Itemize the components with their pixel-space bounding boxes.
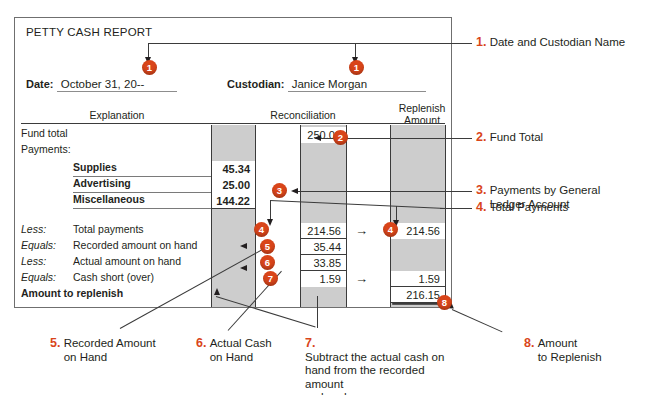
row-description: Recorded amount on hand xyxy=(73,239,197,251)
arrowhead-left-icon xyxy=(291,188,298,194)
table-row: Fund total 250.00 xyxy=(15,127,451,143)
explanation-underline xyxy=(73,208,211,209)
note-4-line-1: Total Payments xyxy=(490,201,569,213)
note-5-body: Recorded Amount on Hand xyxy=(64,337,156,364)
row-description: Supplies xyxy=(73,161,117,173)
note-6-number: 6. xyxy=(196,336,206,350)
arrowhead-left-icon xyxy=(240,243,247,249)
note-dash xyxy=(466,191,472,192)
note-4-body: Total Payments xyxy=(490,201,569,215)
note-4-number: 4. xyxy=(476,200,486,214)
note-8-body: Amount to Replenish xyxy=(538,337,602,364)
column-header-explanation: Explanation xyxy=(19,109,215,121)
callout-badge-2[interactable]: 2 xyxy=(333,130,348,145)
note-8-line-1: Amount xyxy=(538,337,578,349)
row-payment-amount[interactable]: 45.34 xyxy=(212,161,255,177)
note-2: 2. Fund Total xyxy=(476,131,543,145)
arrowhead-left-icon xyxy=(240,265,247,271)
row-prefix: Less: xyxy=(21,255,73,267)
callout-badge-8[interactable]: 8 xyxy=(437,295,452,310)
leader-line-8 xyxy=(452,309,503,332)
note-2-body: Fund Total xyxy=(490,131,544,145)
note-3-number: 3. xyxy=(476,183,486,197)
row-reconciliation-amount[interactable]: 1.59 xyxy=(301,271,346,287)
note-5: 5. Recorded Amount on Hand xyxy=(50,337,156,364)
note-4: 4. Total Payments xyxy=(476,201,568,215)
table-top-rule xyxy=(21,123,445,124)
row-payment-amount[interactable]: 144.22 xyxy=(212,193,255,209)
row-prefix: Equals: xyxy=(21,271,73,283)
note-7-line-3: on hand. xyxy=(305,391,350,395)
custodian-value[interactable]: Janice Morgan xyxy=(288,78,426,92)
note-7: 7. Subtract the actual cash on hand from… xyxy=(305,337,465,395)
note-dash xyxy=(466,208,472,209)
row-replenish-amount[interactable]: 1.59 xyxy=(391,271,445,287)
row-reconciliation-amount[interactable]: 214.56 xyxy=(301,223,346,239)
date-label: Date: xyxy=(26,78,54,90)
row-description: Fund total xyxy=(21,127,68,139)
note-8: 8. Amount to Replenish xyxy=(524,337,602,364)
row-description: Total payments xyxy=(73,223,144,235)
row-reconciliation-amount[interactable]: 35.44 xyxy=(301,239,346,255)
leader-line-4-drop-a xyxy=(270,200,271,221)
note-8-line-2: to Replenish xyxy=(538,351,602,363)
note-5-line-2: on Hand xyxy=(64,351,107,363)
note-5-line-1: Recorded Amount xyxy=(64,337,156,349)
report-table: Fund total 250.00 Payments: Supplies 45.… xyxy=(15,123,451,307)
note-7-line-2: hand from the recorded amount xyxy=(305,364,425,390)
table-row: Equals: Recorded amount on hand 35.44 xyxy=(15,239,451,255)
table-row: Supplies 45.34 xyxy=(15,161,451,177)
callout-badge-5[interactable]: 5 xyxy=(260,239,275,254)
row-prefix: Less: xyxy=(21,223,73,235)
callout-badge-1a[interactable]: 1 xyxy=(142,60,157,75)
row-description: Payments: xyxy=(21,143,71,155)
date-value[interactable]: October 31, 20-- xyxy=(57,78,177,92)
page-title: PETTY CASH REPORT xyxy=(26,26,152,38)
callout-badge-1b[interactable]: 1 xyxy=(349,60,364,75)
flow-arrow-icon: → xyxy=(355,271,368,287)
note-7-line-1: Subtract the actual cash on xyxy=(305,351,444,363)
note-dash xyxy=(466,43,472,44)
row-description: Actual amount on hand xyxy=(73,255,181,267)
callout-badge-4b[interactable]: 4 xyxy=(383,222,398,237)
note-8-number: 8. xyxy=(524,336,534,350)
arrowhead-left-icon xyxy=(314,135,321,141)
note-dash xyxy=(466,138,472,139)
flow-arrow-icon: → xyxy=(355,223,368,239)
leader-line-3 xyxy=(297,191,470,192)
row-prefix: Equals: xyxy=(21,239,73,251)
table-row: Payments: xyxy=(15,143,451,159)
figure-root: PETTY CASH REPORT Date: October 31, 20--… xyxy=(0,0,652,395)
table-row: Equals: Cash short (over) 1.59 → 1.59 xyxy=(15,271,451,287)
callout-badge-4a[interactable]: 4 xyxy=(254,222,269,237)
arrowhead-up-icon xyxy=(214,288,220,295)
note-6: 6. Actual Cash on Hand xyxy=(196,337,272,364)
row-description: Amount to replenish xyxy=(21,287,123,299)
replenish-line1: Replenish xyxy=(391,102,453,114)
date-field[interactable]: Date: October 31, 20-- xyxy=(26,78,177,92)
custodian-field[interactable]: Custodian: Janice Morgan xyxy=(227,78,426,92)
note-7-number: 7. xyxy=(305,336,315,350)
row-description: Miscellaneous xyxy=(73,193,145,205)
row-description: Advertising xyxy=(73,177,131,189)
callout-badge-7[interactable]: 7 xyxy=(263,271,278,286)
table-row: Less: Actual amount on hand 33.85 xyxy=(15,255,451,271)
custodian-label: Custodian: xyxy=(227,78,284,90)
row-description: Cash short (over) xyxy=(73,271,154,283)
leader-line-1 xyxy=(148,43,470,44)
note-1: 1. Date and Custodian Name xyxy=(476,36,625,50)
note-5-number: 5. xyxy=(50,336,60,350)
note-6-body: Actual Cash on Hand xyxy=(210,337,272,364)
callout-badge-3[interactable]: 3 xyxy=(272,183,287,198)
note-1-line-1: Date and Custodian Name xyxy=(490,36,626,48)
leader-line-7 xyxy=(317,296,318,328)
row-replenish-amount[interactable]: 214.56 xyxy=(391,223,445,239)
note-2-line-1: Fund Total xyxy=(490,131,544,143)
callout-badge-6[interactable]: 6 xyxy=(260,255,275,270)
note-7-body: Subtract the actual cash on hand from th… xyxy=(305,351,465,395)
row-payment-amount[interactable]: 25.00 xyxy=(212,177,255,193)
row-reconciliation-amount[interactable]: 33.85 xyxy=(301,255,346,271)
note-1-number: 1. xyxy=(476,35,486,49)
note-3-line-1: Payments by General xyxy=(490,184,601,196)
note-1-body: Date and Custodian Name xyxy=(490,36,626,50)
